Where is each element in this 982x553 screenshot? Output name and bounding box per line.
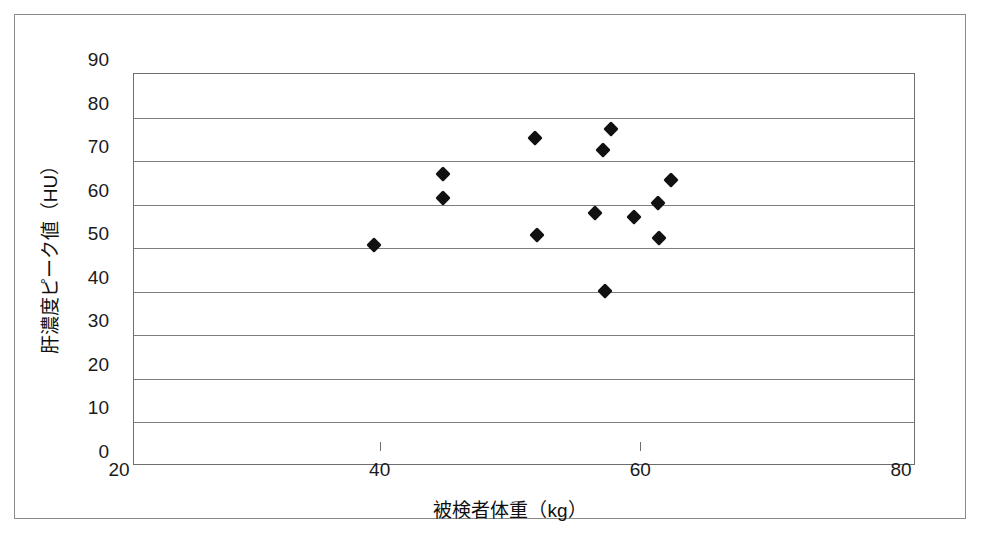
x-axis-label: 被検者体重（kg） [119,495,901,522]
gridline [134,335,914,336]
gridline [134,422,914,423]
data-point-marker [366,237,382,253]
y-tick-label: 30 [88,311,109,330]
y-tick-label: 20 [88,354,109,373]
data-point-marker [595,142,611,158]
x-tick-label: 20 [108,460,129,479]
y-tick-label: 0 [98,442,109,461]
data-point-marker [663,172,679,188]
data-point-marker [528,131,544,147]
gridline [134,118,914,119]
y-axis-label: 肝濃度ピーク値（HU） [35,156,62,354]
data-point-marker [529,227,545,243]
x-axis-tick-labels: 20406080 [119,451,901,491]
y-tick-label: 10 [88,398,109,417]
y-tick-label: 90 [88,50,109,69]
y-tick-label: 70 [88,137,109,156]
y-tick-label: 40 [88,267,109,286]
data-point-marker [650,195,666,211]
x-tick-label: 60 [630,460,651,479]
gridline [134,379,914,380]
data-point-marker [588,205,604,221]
gridline [134,205,914,206]
figure-page: 肝濃度ピーク値（HU） 0102030405060708090 20406080… [0,0,982,553]
data-point-marker [435,166,451,182]
x-tick-mark [380,442,381,451]
plot-area [133,73,915,465]
gridline [134,292,914,293]
x-tick-mark [640,442,641,451]
data-point-marker [597,283,613,299]
data-point-marker [603,121,619,137]
x-tick-label: 80 [890,460,911,479]
data-point-marker [627,209,643,225]
y-tick-label: 80 [88,93,109,112]
gridline [134,248,914,249]
data-point-marker [651,230,667,246]
y-tick-label: 50 [88,224,109,243]
figure-frame: 肝濃度ピーク値（HU） 0102030405060708090 20406080… [14,14,966,519]
gridline [134,161,914,162]
x-tick-label: 40 [369,460,390,479]
y-axis-tick-labels: 0102030405060708090 [61,59,109,451]
data-point-marker [435,190,451,206]
y-tick-label: 60 [88,180,109,199]
